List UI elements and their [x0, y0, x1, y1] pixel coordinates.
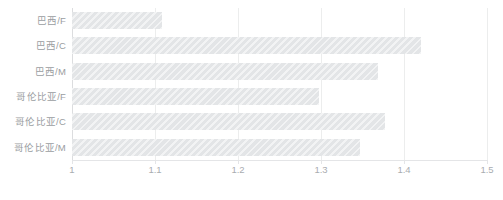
x-tick-label: 1 [69, 164, 74, 175]
bar[interactable] [72, 63, 378, 80]
category-label: 巴西/M [35, 59, 66, 84]
bar-row [72, 109, 487, 134]
x-tick-label: 1.2 [231, 164, 244, 175]
category-label: 哥伦比亚/M [14, 135, 66, 160]
plot-area [72, 8, 487, 160]
x-tick-label: 1.3 [314, 164, 327, 175]
x-tick-mark [487, 160, 488, 164]
bar[interactable] [72, 37, 421, 54]
bar-row [72, 84, 487, 109]
x-tick-mark [238, 160, 239, 164]
category-label: 巴西/F [37, 8, 66, 33]
x-tick-mark [155, 160, 156, 164]
gridline [487, 8, 488, 160]
category-label: 哥伦比亚/C [15, 109, 66, 134]
bar-row [72, 33, 487, 58]
x-tick-label: 1.5 [480, 164, 493, 175]
x-tick-mark [404, 160, 405, 164]
x-tick-label: 1.4 [397, 164, 410, 175]
bar[interactable] [72, 113, 385, 130]
bar[interactable] [72, 88, 319, 105]
x-axis-line [72, 160, 487, 161]
category-axis: 巴西/F巴西/C巴西/M哥伦比亚/F哥伦比亚/C哥伦比亚/M [0, 8, 66, 160]
x-tick-labels: 11.11.21.31.41.5 [0, 164, 503, 184]
bar-row [72, 8, 487, 33]
x-tick-mark [321, 160, 322, 164]
x-tick-label: 1.1 [148, 164, 161, 175]
x-tick-mark [72, 160, 73, 164]
bar[interactable] [72, 12, 162, 29]
category-label: 巴西/C [36, 33, 66, 58]
category-label: 哥伦比亚/F [16, 84, 66, 109]
bar-row [72, 135, 487, 160]
bar[interactable] [72, 139, 360, 156]
bar-row [72, 59, 487, 84]
bar-chart: 巴西/F巴西/C巴西/M哥伦比亚/F哥伦比亚/C哥伦比亚/M 11.11.21.… [0, 0, 503, 200]
